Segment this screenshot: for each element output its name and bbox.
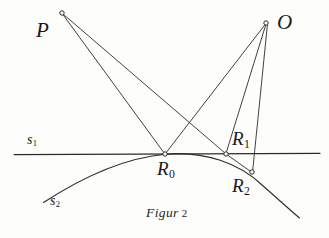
- subscript-r1: 1: [244, 138, 250, 151]
- point-marker-r1: [224, 152, 228, 156]
- subscript-s2: 2: [56, 199, 60, 209]
- segment-r1-r2: [226, 154, 252, 173]
- subscript-s1: 1: [33, 138, 37, 148]
- figure-caption: Figur2: [146, 205, 188, 221]
- label-point-o: O: [277, 12, 292, 33]
- segment-o-r2: [253, 24, 268, 173]
- label-point-r2: R2: [232, 176, 250, 195]
- caption-word: Figur: [146, 205, 179, 220]
- segment-p-r0: [63, 14, 165, 154]
- point-marker-r2: [250, 170, 254, 174]
- label-curve-s1: s1: [27, 133, 37, 147]
- point-marker-r0: [163, 152, 167, 156]
- point-marker-p: [60, 11, 64, 15]
- label-curve-s2: s2: [50, 194, 60, 208]
- label-point-r1: R1: [232, 129, 250, 148]
- point-marker-o: [264, 21, 268, 25]
- caption-number: 2: [182, 207, 188, 219]
- subscript-r2: 2: [244, 185, 250, 198]
- figure-2-diagram: P O R0 R1 R2 s1 s2 Figur2: [0, 0, 329, 238]
- segment-o-r0: [166, 24, 266, 154]
- segment-p-r1: [63, 14, 226, 154]
- label-point-r0: R0: [157, 159, 175, 178]
- subscript-r0: 0: [169, 168, 175, 181]
- label-point-p: P: [36, 20, 49, 41]
